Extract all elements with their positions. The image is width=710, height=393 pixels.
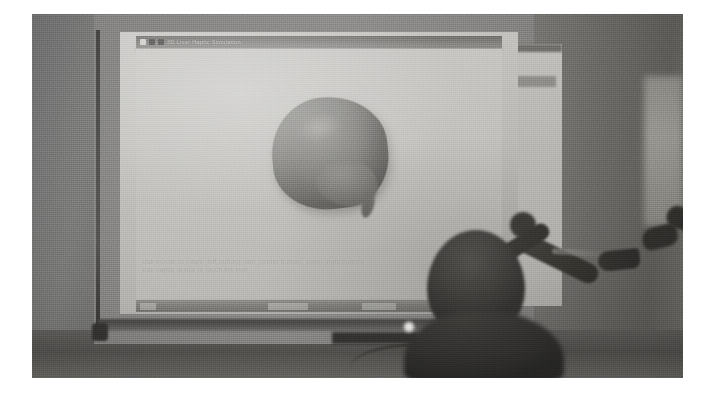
whiteboard-foot	[92, 323, 108, 341]
app-icon	[140, 39, 146, 45]
wall-panel-band	[512, 76, 556, 87]
task-button-2[interactable]	[362, 303, 396, 310]
desk-edge	[332, 332, 418, 344]
menu-icon	[158, 39, 164, 45]
start-button[interactable]	[140, 303, 156, 310]
whiteboard-left-edge	[96, 30, 100, 336]
photograph: 3D Liver Haptic Simulation Use mouse to …	[32, 14, 683, 378]
window-title: 3D Liver Haptic Simulation	[167, 39, 241, 46]
document-icon	[149, 39, 155, 45]
window-titlebar[interactable]: 3D Liver Haptic Simulation	[136, 36, 502, 48]
wall-light-patch	[644, 76, 683, 226]
led-light	[402, 320, 416, 334]
task-button-1[interactable]	[268, 303, 308, 310]
page-canvas: 3D Liver Haptic Simulation Use mouse to …	[0, 0, 710, 393]
